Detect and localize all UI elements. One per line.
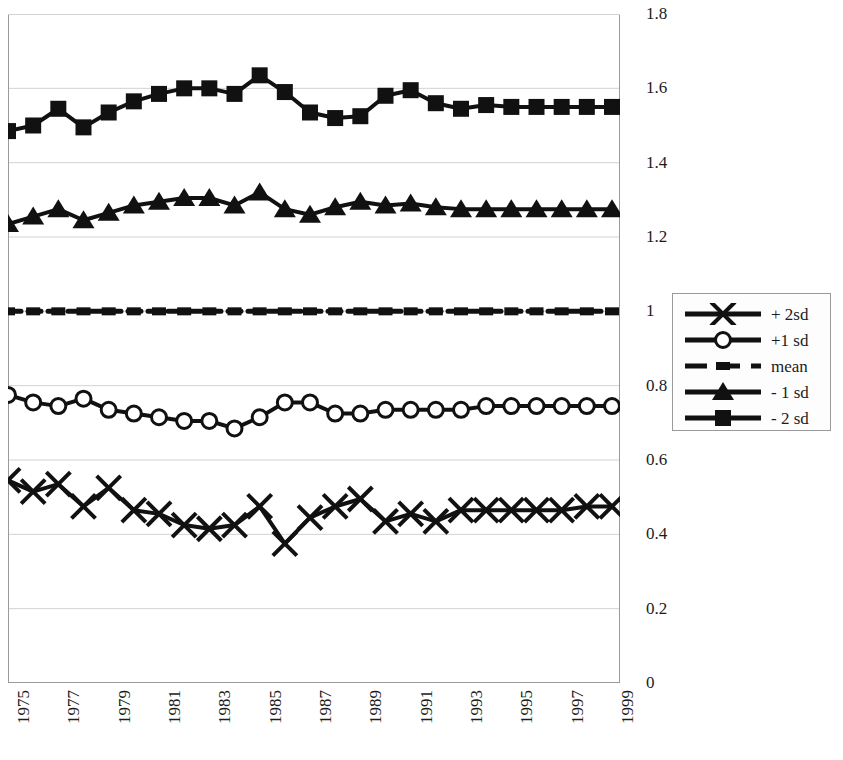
marker-triangle	[47, 199, 69, 217]
plot-area	[8, 14, 620, 683]
marker-square	[403, 82, 419, 98]
marker-circle	[177, 413, 192, 428]
marker-circle	[227, 421, 242, 436]
marker-dash	[127, 307, 141, 315]
marker-square	[227, 86, 243, 102]
y-tick-label: 0.4	[646, 525, 667, 542]
series--1-sd	[8, 182, 620, 232]
legend-swatch-square-icon	[681, 407, 765, 429]
legend-swatch-x-icon	[681, 303, 765, 325]
marker-dash	[51, 307, 65, 315]
y-tick-label: 1.8	[646, 5, 667, 22]
marker-square	[503, 99, 519, 115]
y-tick-label: 1.2	[646, 228, 667, 245]
x-tick-label: 1979	[116, 690, 133, 724]
marker-square	[176, 80, 192, 96]
legend-label: mean	[771, 358, 808, 375]
marker-circle	[202, 413, 217, 428]
marker-square	[252, 67, 268, 83]
marker-dash	[26, 307, 40, 315]
legend-label: - 1 sd	[771, 384, 809, 401]
marker-square	[201, 80, 217, 96]
marker-triangle	[249, 182, 271, 200]
marker-circle	[579, 399, 594, 414]
marker-square	[8, 123, 16, 139]
x-tick-label: 1991	[418, 690, 435, 724]
marker-circle	[605, 399, 620, 414]
x-tick-label: 1983	[216, 690, 233, 724]
marker-dash	[404, 307, 418, 315]
legend-marker-icon	[681, 407, 765, 429]
plot-canvas	[8, 14, 620, 683]
marker-circle	[277, 395, 292, 410]
x-tick-label: 1999	[619, 690, 636, 724]
marker-square	[25, 118, 41, 134]
marker-circle	[152, 410, 167, 425]
marker-circle	[126, 406, 141, 421]
x-tick-label: 1997	[569, 690, 586, 724]
marker-dash	[102, 307, 116, 315]
marker-square	[478, 97, 494, 113]
marker-triangle	[349, 192, 371, 210]
legend-swatch-dash-icon	[681, 355, 765, 377]
marker-square	[604, 99, 620, 115]
marker-circle	[353, 406, 368, 421]
y-tick-label: 0	[646, 674, 655, 691]
legend-item--1-sd[interactable]: +1 sd	[673, 327, 830, 353]
legend-item-mean[interactable]: mean	[673, 353, 830, 379]
marker-dash	[479, 307, 493, 315]
marker-circle	[76, 391, 91, 406]
marker-dash	[530, 307, 544, 315]
legend-item--2sd[interactable]: + 2sd	[673, 301, 830, 327]
chart-legend: + 2sd+1 sdmean- 1 sd- 2 sd	[672, 293, 831, 431]
legend-marker-icon	[681, 329, 765, 351]
marker-dash	[253, 307, 267, 315]
x-tick-label: 1987	[317, 690, 334, 724]
marker-dash	[353, 307, 367, 315]
marker-dash	[379, 307, 393, 315]
marker-circle	[529, 399, 544, 414]
legend-item--1-sd[interactable]: - 1 sd	[673, 379, 830, 405]
y-tick-label: 1.4	[646, 154, 667, 171]
marker-dash	[580, 307, 594, 315]
marker-dash	[504, 307, 518, 315]
marker-dash	[8, 307, 15, 315]
marker-square	[352, 108, 368, 124]
marker-dash	[454, 307, 468, 315]
marker-square	[428, 95, 444, 111]
x-tick-label: 1995	[518, 690, 535, 724]
x-axis: 1975197719791981198319851987198919911993…	[0, 690, 640, 760]
y-tick-label: 0.2	[646, 600, 667, 617]
marker-dash	[555, 307, 569, 315]
marker-dash	[328, 307, 342, 315]
marker-circle	[8, 387, 16, 402]
x-tick-label: 1977	[65, 690, 82, 724]
marker-circle	[252, 410, 267, 425]
marker-square	[277, 84, 293, 100]
marker-dash	[77, 307, 91, 315]
legend-label: +1 sd	[771, 332, 808, 349]
x-tick-label: 1985	[267, 690, 284, 724]
marker-circle	[328, 406, 343, 421]
chart-container: 1.81.61.41.210.80.60.40.20 1975197719791…	[0, 0, 843, 760]
legend-marker-icon	[681, 381, 765, 403]
x-tick-label: 1989	[367, 690, 384, 724]
marker-dash	[605, 307, 619, 315]
y-tick-label: 0.8	[646, 377, 667, 394]
legend-label: - 2 sd	[771, 410, 809, 427]
marker-square	[101, 104, 117, 120]
marker-square	[50, 101, 66, 117]
legend-swatch-triangle-icon	[681, 381, 765, 403]
marker-circle	[403, 402, 418, 417]
marker-dash	[177, 307, 191, 315]
legend-item--2-sd[interactable]: - 2 sd	[673, 405, 830, 431]
series--2sd	[8, 468, 620, 555]
series--2-sd	[8, 67, 620, 139]
marker-square	[126, 93, 142, 109]
marker-square	[554, 99, 570, 115]
marker-dash	[202, 307, 216, 315]
marker-circle	[454, 402, 469, 417]
marker-square	[378, 88, 394, 104]
series-line	[8, 75, 612, 131]
marker-circle	[716, 333, 731, 348]
